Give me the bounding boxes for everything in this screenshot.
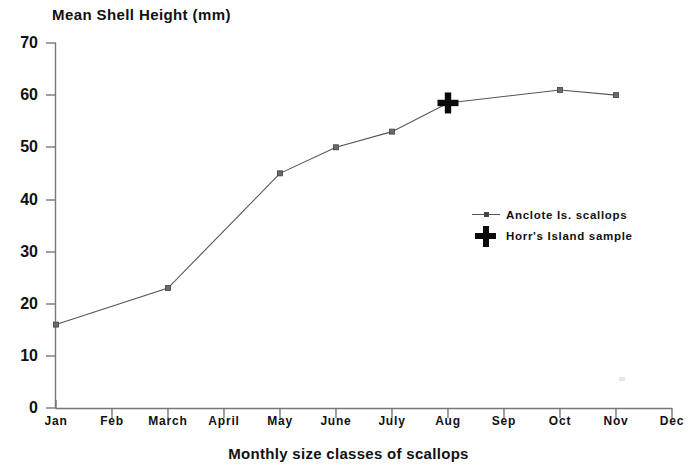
scan-artifact <box>619 377 625 381</box>
x-tick-label: Aug <box>435 414 461 428</box>
legend-item-anclote: Anclote Is. scallops <box>470 204 670 225</box>
scallop-growth-chart: Mean Shell Height (mm) <box>0 0 697 473</box>
y-tick-label: 70 <box>4 34 38 52</box>
x-tick-label: June <box>320 414 351 428</box>
y-tick-label: 10 <box>4 347 38 365</box>
x-axis-title: Monthly size classes of scallops <box>0 445 697 462</box>
x-tick-label: July <box>378 414 405 428</box>
data-point-marker <box>278 171 283 176</box>
legend-label: Horr's Island sample <box>506 230 633 242</box>
x-tick-label: Sep <box>492 414 516 428</box>
x-tick-label: Feb <box>100 414 124 428</box>
x-tick-label: Jan <box>44 414 67 428</box>
x-tick-label: April <box>208 414 239 428</box>
data-point-marker <box>614 93 619 98</box>
data-point-marker <box>390 129 395 134</box>
y-tick-label: 20 <box>4 295 38 313</box>
y-tick-label: 60 <box>4 86 38 104</box>
x-tick-label: May <box>267 414 293 428</box>
x-tick-label: Oct <box>549 414 571 428</box>
horrs-island-cross-marker <box>438 92 459 113</box>
x-tick-label: Nov <box>603 414 628 428</box>
y-axis-labels: 70 60 50 40 30 20 10 0 <box>0 0 38 473</box>
data-point-marker <box>54 322 59 327</box>
y-tick-label: 30 <box>4 243 38 261</box>
legend-label: Anclote Is. scallops <box>506 209 627 221</box>
y-tick-label: 40 <box>4 191 38 209</box>
data-point-marker <box>558 87 563 92</box>
cross-marker-icon <box>470 226 502 246</box>
chart-legend: Anclote Is. scallops Horr's Island sampl… <box>470 204 670 246</box>
data-point-marker <box>166 286 171 291</box>
x-tick-label: Dec <box>660 414 684 428</box>
line-square-marker-icon <box>470 205 502 225</box>
legend-item-horrs-island: Horr's Island sample <box>470 225 670 246</box>
y-axis-ticks <box>46 43 56 408</box>
x-tick-label: March <box>148 414 187 428</box>
data-point-marker <box>334 145 339 150</box>
y-tick-label: 0 <box>4 399 38 417</box>
y-tick-label: 50 <box>4 138 38 156</box>
